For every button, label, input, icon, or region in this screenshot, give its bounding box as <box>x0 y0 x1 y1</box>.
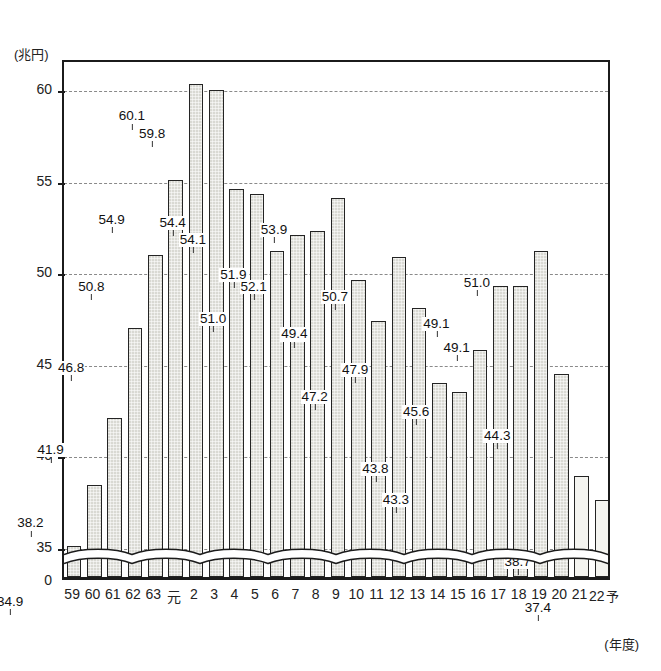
bar-8[interactable] <box>310 231 325 577</box>
bar-value-label-10: 49.4 <box>280 327 308 341</box>
y-tick-label-50: 50 <box>20 264 52 280</box>
bar-21[interactable] <box>574 476 589 577</box>
y-tick-mark-55 <box>58 183 65 185</box>
bar-value-label-9: 53.9 <box>260 223 288 237</box>
bar-value-label-61: 41.9 <box>37 443 65 457</box>
bar-value-label-63: 50.8 <box>77 280 105 294</box>
bar-value-label-21: 38.7 <box>503 555 531 569</box>
gridline-55 <box>64 183 608 184</box>
y-tick-mark-40 <box>58 457 65 459</box>
bar-2[interactable] <box>189 84 204 577</box>
x-tick-label-7: 7 <box>292 586 300 602</box>
bar-value-label-11: 47.2 <box>300 390 328 404</box>
bar-63[interactable] <box>148 255 163 577</box>
bar-value-label-14: 43.8 <box>361 462 389 476</box>
x-tick-label-20: 20 <box>551 586 567 602</box>
bar-value-label-5: 54.1 <box>179 233 207 247</box>
x-tick-label-12: 12 <box>389 586 405 602</box>
bar-value-label-17: 49.1 <box>422 317 450 331</box>
y-tick-label-45: 45 <box>20 356 52 372</box>
x-tick-label-5: 5 <box>251 586 259 602</box>
bar-value-label-19: 51.0 <box>463 276 491 290</box>
bar-value-label-3: 59.8 <box>138 127 166 141</box>
bar-value-label-20: 44.3 <box>483 429 511 443</box>
x-tick-label-2: 2 <box>190 586 198 602</box>
bar-3[interactable] <box>209 90 224 577</box>
x-tick-label-6: 6 <box>271 586 279 602</box>
bar-15[interactable] <box>452 392 467 577</box>
x-tick-label-13: 13 <box>409 586 425 602</box>
x-tick-label-16: 16 <box>470 586 486 602</box>
bar-value-label-16: 45.6 <box>402 405 430 419</box>
bar-value-label-22: 37.4 <box>524 601 552 615</box>
bar-60[interactable] <box>87 485 102 577</box>
bar-18[interactable] <box>513 286 528 577</box>
bar-62[interactable] <box>128 328 143 577</box>
x-tick-label-59: 59 <box>64 586 80 602</box>
bar-5[interactable] <box>250 194 265 577</box>
x-tick-label-17: 17 <box>491 586 507 602</box>
x-tick-label-63: 63 <box>146 586 162 602</box>
y-tick-mark-60 <box>58 91 65 93</box>
x-tick-label-4: 4 <box>231 586 239 602</box>
y-tick-label-60: 60 <box>20 81 52 97</box>
bar-value-label-60: 38.2 <box>16 516 44 530</box>
bar-22[interactable] <box>595 500 608 577</box>
bar-16[interactable] <box>473 350 488 577</box>
bar-10[interactable] <box>351 280 366 577</box>
bar-13[interactable] <box>412 308 427 577</box>
bar-value-label-4: 54.4 <box>158 216 186 230</box>
x-tick-label-11: 11 <box>369 586 384 602</box>
x-tick-label-8: 8 <box>312 586 320 602</box>
y-tick-label-0: 0 <box>20 572 52 588</box>
x-tick-label-62: 62 <box>125 586 141 602</box>
gridline-60 <box>64 91 608 92</box>
x-tick-label-61: 61 <box>105 586 121 602</box>
x-tick-label-10: 10 <box>348 586 364 602</box>
bar-6[interactable] <box>270 251 285 577</box>
bar-20[interactable] <box>554 374 569 577</box>
bar-value-label-62: 46.8 <box>57 361 85 375</box>
x-tick-label-60: 60 <box>85 586 101 602</box>
x-tick-label-22: 22予 <box>589 586 619 605</box>
bar-value-label-6: 51.0 <box>199 312 227 326</box>
bar-value-label-59: 34.9 <box>0 595 24 609</box>
bar-61[interactable] <box>107 418 122 577</box>
bar-11[interactable] <box>371 321 386 577</box>
bar-value-label-元: 54.9 <box>97 213 125 227</box>
bar-59[interactable] <box>67 546 82 577</box>
bar-value-label-8: 52.1 <box>240 280 268 294</box>
x-tick-label-14: 14 <box>430 586 446 602</box>
bar-value-label-13: 47.9 <box>341 363 369 377</box>
y-tick-mark-50 <box>58 274 65 276</box>
bar-value-label-12: 50.7 <box>321 290 349 304</box>
x-tick-label-9: 9 <box>332 586 340 602</box>
bar-19[interactable] <box>534 251 549 577</box>
y-tick-mark-35 <box>58 549 65 551</box>
bar-7[interactable] <box>290 235 305 577</box>
x-tick-label-21: 21 <box>572 586 588 602</box>
chart-root: (兆円) (年度) 035404550556034.95938.26041.96… <box>0 0 661 671</box>
bar-9[interactable] <box>331 198 346 577</box>
x-tick-label-15: 15 <box>450 586 466 602</box>
y-tick-label-35: 35 <box>20 539 52 555</box>
bar-value-label-2: 60.1 <box>118 109 146 123</box>
x-tick-label-元: 元 <box>167 586 181 606</box>
x-tick-label-3: 3 <box>210 586 218 602</box>
x-axis-title: (年度) <box>604 634 639 653</box>
bar-14[interactable] <box>432 383 447 577</box>
y-axis-unit-label: (兆円) <box>14 44 49 63</box>
bar-value-label-15: 43.3 <box>382 493 410 507</box>
bar-4[interactable] <box>229 189 244 577</box>
y-tick-label-55: 55 <box>20 173 52 189</box>
bar-value-label-18: 49.1 <box>443 341 471 355</box>
